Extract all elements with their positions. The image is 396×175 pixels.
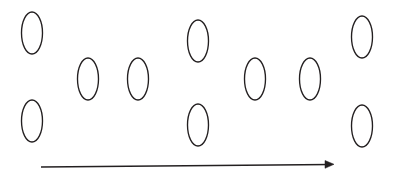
diagram-canvas bbox=[0, 0, 396, 175]
diagram-background bbox=[0, 0, 396, 175]
ellipse-pattern-diagram bbox=[0, 0, 396, 175]
